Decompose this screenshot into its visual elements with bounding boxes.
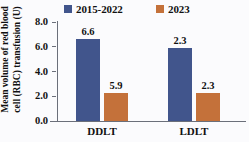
- legend-swatch-icon-series-0: [64, 5, 72, 13]
- plot-area: 6.65.92.32.3: [57, 22, 245, 121]
- y-axis-tick-mark: [52, 96, 56, 97]
- x-axis-label-ddlt: DDLT: [62, 124, 142, 138]
- y-axis-tick-mark: [52, 71, 56, 72]
- y-axis-tick-label: 6.0: [14, 40, 48, 53]
- bar-value-label: 2.3: [201, 80, 214, 92]
- y-axis-tick-label: 2.0: [14, 89, 48, 102]
- legend-item-2023: 2023: [156, 3, 190, 15]
- legend-label-series-1: 2023: [168, 3, 190, 15]
- x-axis-line: [50, 121, 246, 122]
- bar-value-label: 5.9: [109, 80, 122, 92]
- y-axis-tick-mark: [52, 46, 56, 47]
- bar-ddlt-0: 6.6: [76, 39, 100, 121]
- bar-ldlt-0: 2.3: [168, 48, 192, 121]
- y-axis-tick-mark: [52, 22, 56, 23]
- y-axis-tick-label: 4.0: [14, 65, 48, 78]
- legend-swatch-icon-series-1: [156, 5, 164, 13]
- legend-label-series-0: 2015-2022: [76, 3, 123, 15]
- bar-chart: 2015-2022 2023 Mean volume of red blood …: [0, 0, 249, 142]
- bar-ldlt-1: 2.3: [196, 93, 220, 121]
- y-axis-tick-label: 0.0: [14, 114, 48, 127]
- x-axis-label-ldlt: LDLT: [154, 124, 234, 138]
- bar-value-label: 6.6: [81, 26, 94, 38]
- bar-value-label: 2.3: [173, 35, 186, 47]
- y-axis-tick-mark: [52, 121, 56, 122]
- y-axis-title-line-1: Mean volume of red blood: [0, 0, 11, 123]
- y-axis-tick-label: 8.0: [14, 15, 48, 28]
- legend-item-2015-2022: 2015-2022: [64, 3, 123, 15]
- bar-ddlt-1: 5.9: [104, 93, 128, 121]
- chart-legend: 2015-2022 2023: [62, 3, 242, 17]
